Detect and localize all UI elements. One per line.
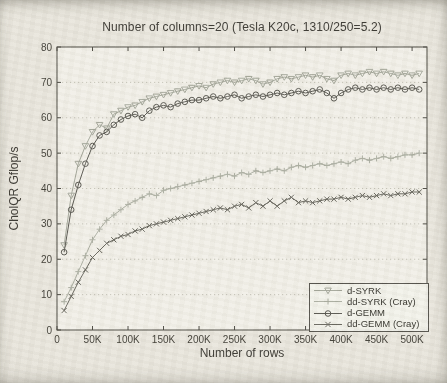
legend-item-d-gemm: d-GEMM xyxy=(313,308,425,318)
legend-marker-dd-syrk-cray xyxy=(313,297,343,306)
legend-marker-dd-gemm-cray xyxy=(313,320,343,329)
legend-item-d-syrk: d-SYRK xyxy=(313,286,425,296)
svg-text:250K: 250K xyxy=(223,334,247,345)
svg-text:150K: 150K xyxy=(152,334,176,345)
svg-text:350K: 350K xyxy=(294,334,318,345)
legend-marker-d-syrk xyxy=(313,286,343,295)
svg-text:80: 80 xyxy=(41,42,53,53)
svg-text:450K: 450K xyxy=(365,334,389,345)
chart-figure: Number of columns=20 (Tesla K20c, 1310/2… xyxy=(0,0,447,383)
svg-text:50: 50 xyxy=(41,148,53,159)
svg-text:20: 20 xyxy=(41,254,53,265)
svg-text:10: 10 xyxy=(41,289,53,300)
scanned-page: Number of columns=20 (Tesla K20c, 1310/2… xyxy=(0,0,447,383)
svg-text:30: 30 xyxy=(41,218,53,229)
svg-text:500K: 500K xyxy=(400,334,424,345)
legend-item-dd-gemm-cray: dd-GEMM (Cray) xyxy=(313,319,425,329)
svg-text:200K: 200K xyxy=(187,334,211,345)
legend-item-dd-syrk-cray: dd-SYRK (Cray) xyxy=(313,297,425,307)
svg-text:60: 60 xyxy=(41,112,53,123)
svg-text:300K: 300K xyxy=(258,334,282,345)
svg-text:400K: 400K xyxy=(329,334,353,345)
legend-marker-d-gemm xyxy=(313,309,343,318)
svg-text:0: 0 xyxy=(46,325,52,336)
chart-legend: d-SYRK dd-SYRK (Cray) d-GEMM dd-GEMM (Cr… xyxy=(309,283,429,332)
svg-text:40: 40 xyxy=(41,183,53,194)
legend-label: dd-GEMM (Cray) xyxy=(347,319,419,329)
legend-label: d-SYRK xyxy=(347,286,381,296)
svg-text:70: 70 xyxy=(41,77,53,88)
svg-text:50K: 50K xyxy=(84,334,102,345)
svg-text:0: 0 xyxy=(54,334,60,345)
legend-label: dd-SYRK (Cray) xyxy=(347,297,416,307)
svg-text:100K: 100K xyxy=(116,334,140,345)
legend-label: d-GEMM xyxy=(347,308,385,318)
